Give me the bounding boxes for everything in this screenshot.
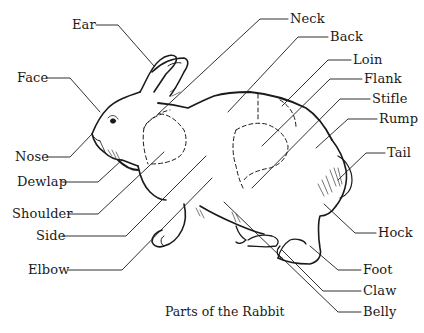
label-face: Face [17, 70, 48, 85]
label-dewlap: Dewlap [17, 174, 67, 189]
diagram-caption: Parts of the Rabbit [165, 304, 284, 319]
label-hock: Hock [378, 225, 413, 240]
label-flank: Flank [364, 71, 402, 86]
label-tail: Tail [387, 145, 411, 160]
label-loin: Loin [353, 52, 382, 67]
label-shoulder: Shoulder [12, 206, 73, 221]
label-belly: Belly [363, 304, 396, 319]
label-neck: Neck [290, 11, 325, 26]
rabbit-diagram: Ear Face Nose Dewlap Shoulder Side Elbow… [0, 0, 424, 333]
rabbit-body-outline [92, 55, 352, 264]
label-foot: Foot [363, 262, 393, 277]
label-claw: Claw [363, 283, 396, 298]
label-back: Back [330, 29, 363, 44]
rabbit-illustration [0, 0, 424, 333]
label-stifle: Stifle [372, 91, 408, 106]
label-rump: Rump [379, 111, 418, 126]
label-nose: Nose [15, 149, 49, 164]
label-side: Side [36, 228, 65, 243]
label-ear: Ear [72, 17, 96, 32]
leader-lines [46, 19, 385, 312]
body-region-boundaries [143, 94, 296, 190]
label-elbow: Elbow [28, 262, 69, 277]
